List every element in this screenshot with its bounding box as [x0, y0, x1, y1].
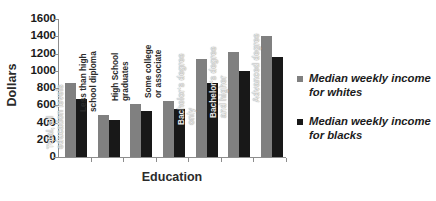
bar	[239, 71, 250, 157]
y-axis-tick-mark	[54, 140, 58, 141]
legend-swatch-icon	[297, 119, 303, 125]
bar	[174, 109, 185, 157]
y-axis-tick-labels: 16001400120010008006004002000	[18, 0, 56, 201]
bar	[196, 59, 207, 157]
bar-group: Some college or associate	[163, 19, 185, 157]
x-axis-title: Education	[58, 170, 286, 184]
y-axis-tick-label: 1400	[18, 30, 56, 42]
bar-chart: Dollars 16001400120010008006004002000 To…	[0, 0, 436, 201]
plot-area: Total, all education levelsLess than hig…	[58, 19, 286, 158]
bar	[228, 52, 239, 157]
bar-group: Bachelor's degree only	[196, 19, 218, 157]
chart-legend: Median weekly income for whitesMedian we…	[297, 72, 436, 158]
y-axis-tick-label: 600	[18, 99, 56, 111]
bar	[163, 101, 174, 157]
x-axis-tick-mark	[221, 158, 222, 162]
x-axis-line	[58, 157, 286, 158]
y-axis-tick-label: 800	[18, 82, 56, 94]
bar	[207, 83, 218, 157]
bar	[76, 99, 87, 157]
x-axis-tick-mark	[253, 158, 254, 162]
x-axis-tick-mark	[123, 158, 124, 162]
legend-swatch-icon	[297, 76, 303, 82]
y-axis-tick-label: 1200	[18, 48, 56, 60]
bar	[65, 83, 76, 157]
x-axis-tick-mark	[156, 158, 157, 162]
bar-group: Total, all education levels	[65, 19, 87, 157]
bar	[261, 36, 272, 157]
y-axis-tick-mark	[54, 88, 58, 89]
legend-item: Median weekly income for whites	[297, 72, 436, 99]
x-axis-tick-mark	[91, 158, 92, 162]
bar	[109, 120, 120, 157]
y-axis-tick-mark	[54, 19, 58, 20]
bar-group: High School graduates	[130, 19, 152, 157]
x-axis-tick-mark	[286, 158, 287, 162]
y-axis-tick-mark	[54, 123, 58, 124]
y-axis-title: Dollars	[5, 50, 19, 120]
y-axis-tick-label: 1000	[18, 65, 56, 77]
y-axis-tick-label: 1600	[18, 13, 56, 25]
y-axis-line	[58, 19, 59, 158]
x-axis-tick-mark	[188, 158, 189, 162]
bar-group: Advanced degree	[261, 19, 283, 157]
legend-item: Median weekly income for blacks	[297, 115, 436, 142]
bar-category-label: Advanced degree	[251, 0, 261, 102]
bar	[130, 104, 141, 157]
bar	[272, 57, 283, 157]
bar-group: Less than high school diploma	[98, 19, 120, 157]
bar	[141, 111, 152, 157]
legend-label: Median weekly income for whites	[309, 72, 431, 99]
bar	[98, 115, 109, 157]
y-axis-tick-mark	[54, 105, 58, 106]
y-axis-tick-label: 400	[18, 117, 56, 129]
y-axis-tick-mark	[54, 157, 58, 158]
y-axis-tick-mark	[54, 71, 58, 72]
legend-label: Median weekly income for blacks	[309, 115, 431, 142]
y-axis-tick-mark	[54, 36, 58, 37]
y-axis-tick-label: 0	[18, 151, 56, 163]
y-axis-tick-label: 200	[18, 134, 56, 146]
y-axis-tick-mark	[54, 54, 58, 55]
bar-group: Bachelor's degree and higher	[228, 19, 250, 157]
